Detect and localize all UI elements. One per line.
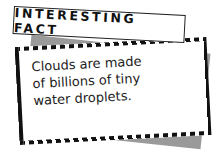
fact-card: Clouds are made of billions of tiny wate… (15, 37, 212, 145)
fact-text: Clouds are made of billions of tiny wate… (31, 52, 144, 109)
